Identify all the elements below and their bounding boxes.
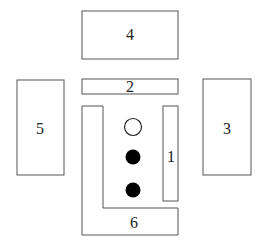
filled-circle: [126, 183, 141, 198]
box-5-label: 5: [36, 120, 44, 137]
box-4-label: 4: [126, 26, 134, 43]
box-3: 3: [203, 79, 251, 175]
box-2: 2: [82, 78, 178, 95]
box-6-label: 6: [130, 214, 138, 231]
box-2-label: 2: [126, 78, 134, 95]
box-5: 5: [17, 80, 64, 175]
box-1-label: 1: [167, 148, 175, 165]
box-4: 4: [82, 11, 178, 59]
box-1: 1: [163, 106, 178, 201]
diagram-canvas: 4 2 5 3 1 6: [0, 0, 265, 247]
filled-circle: [126, 150, 141, 165]
box-3-label: 3: [223, 120, 231, 137]
open-circle: [125, 119, 142, 136]
